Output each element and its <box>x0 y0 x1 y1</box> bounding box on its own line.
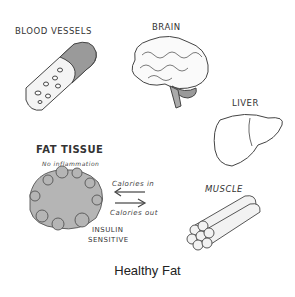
blood-vessels-label: BLOOD VESSELS <box>15 26 92 36</box>
calories-in-label: Calories in <box>112 180 154 188</box>
insulin-label: INSULIN <box>92 226 124 234</box>
muscle-label: MUSCLE <box>205 184 243 194</box>
liver-icon <box>214 114 282 166</box>
fat-tissue-icon <box>30 166 103 230</box>
blood-vessel-icon <box>26 42 96 110</box>
fat-tissue-sublabel: No inflammation <box>42 160 99 167</box>
calories-out-label: Calories out <box>110 209 158 217</box>
liver-label: LIVER <box>232 98 259 108</box>
calorie-arrows <box>115 188 145 207</box>
brain-label: BRAIN <box>152 22 181 32</box>
diagram-caption: Healthy Fat <box>0 263 295 278</box>
sensitive-label: SENSITIVE <box>88 236 129 244</box>
brain-icon <box>132 36 208 108</box>
fat-tissue-label: FAT TISSUE <box>36 144 103 155</box>
muscle-icon <box>187 196 260 250</box>
